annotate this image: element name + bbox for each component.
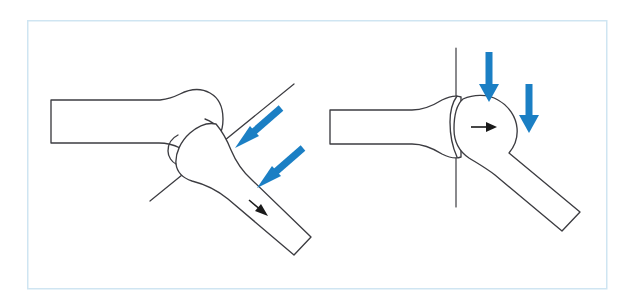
hip-joint-diagram-svg bbox=[0, 0, 638, 302]
figure-root bbox=[0, 0, 638, 302]
canvas-background bbox=[0, 0, 638, 302]
